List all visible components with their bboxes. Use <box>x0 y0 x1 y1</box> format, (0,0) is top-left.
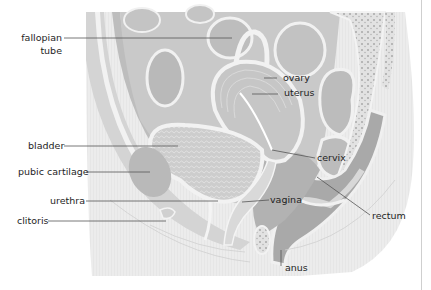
label-pubic-cartilage: pubic cartilage <box>18 166 89 177</box>
label-urethra: urethra <box>50 195 85 206</box>
pelvis-anatomy-illustration <box>0 0 431 290</box>
colon-segment <box>320 69 354 135</box>
label-bladder: bladder <box>28 140 64 151</box>
label-fallopian-tube-line1: fallopian <box>20 32 62 43</box>
label-vagina: vagina <box>270 194 302 205</box>
clitoris <box>160 208 175 218</box>
label-anus: anus <box>285 262 308 273</box>
page-edge-line <box>421 0 422 290</box>
intestine-loop <box>147 50 183 106</box>
label-clitoris: clitoris <box>17 215 49 226</box>
label-rectum: rectum <box>372 210 406 221</box>
label-fallopian-tube-line2: tube <box>20 45 62 56</box>
label-ovary: ovary <box>283 72 310 83</box>
anal-sphincter <box>254 226 270 254</box>
label-uterus: uterus <box>284 87 314 98</box>
intestine-loop <box>275 23 325 77</box>
label-cervix: cervix <box>317 152 346 163</box>
